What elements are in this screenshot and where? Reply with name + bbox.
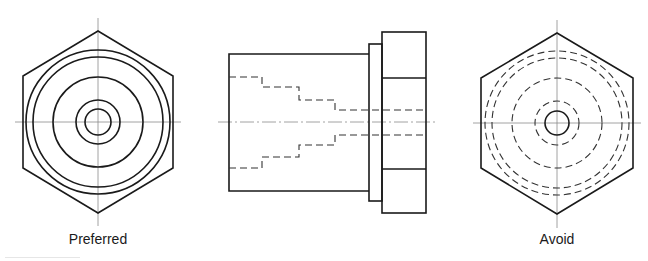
- side-view: [218, 32, 436, 213]
- body-outline: [229, 54, 369, 191]
- label-avoid: Avoid: [540, 231, 575, 247]
- technical-drawing: [0, 0, 648, 261]
- hidden-bore-lower: [229, 135, 426, 168]
- hex-outline-side: [382, 32, 426, 213]
- end-view-avoid: [473, 20, 641, 228]
- end-view-preferred: [15, 18, 181, 226]
- hidden-bore-upper: [229, 77, 426, 110]
- divider-line: [5, 257, 80, 258]
- label-preferred: Preferred: [69, 231, 127, 247]
- flange-outline: [369, 44, 382, 201]
